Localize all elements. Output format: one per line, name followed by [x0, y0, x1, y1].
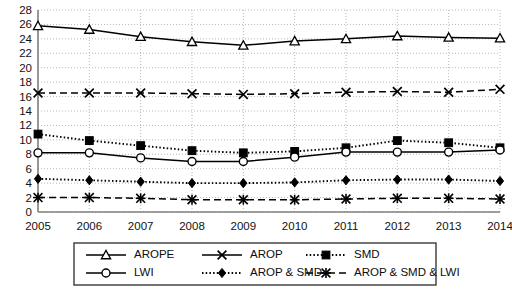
data-point-marker-square [85, 137, 93, 145]
y-axis-tick-label: 18 [19, 76, 32, 88]
legend-label: SMD [354, 248, 380, 260]
data-point-marker-square [239, 149, 247, 157]
y-axis-tick-label: 6 [26, 163, 32, 175]
y-axis-tick-label: 20 [19, 62, 32, 74]
data-point-marker-circle [188, 158, 196, 166]
data-point-marker-square [188, 147, 196, 155]
data-point-marker-circle [102, 269, 110, 277]
x-axis-tick-label: 2005 [25, 220, 51, 232]
data-point-marker-circle [342, 148, 350, 156]
legend-label: AROP & SMD & LWI [354, 266, 460, 278]
legend-label: LWI [134, 266, 154, 278]
y-axis-tick-label: 28 [19, 4, 32, 16]
x-axis-tick-label: 2012 [385, 220, 411, 232]
data-point-marker-circle [445, 148, 453, 156]
x-axis-tick-label: 2014 [487, 220, 512, 232]
x-axis-tick-label: 2013 [436, 220, 462, 232]
data-point-marker-circle [239, 158, 247, 166]
y-axis-tick-label: 14 [19, 105, 32, 117]
data-point-marker-star [290, 195, 300, 205]
y-axis-tick-label: 12 [19, 119, 32, 131]
y-axis-tick-label: 26 [19, 18, 32, 30]
legend-label: AROP [250, 248, 283, 260]
legend-label: AROP & SMD [250, 266, 322, 278]
data-point-marker-star [238, 195, 248, 205]
data-point-marker-circle [85, 149, 93, 157]
chart-container: 0246810121416182022242628 20052006200720… [0, 0, 512, 290]
data-point-marker-circle [393, 148, 401, 156]
x-axis-tick-label: 2006 [77, 220, 103, 232]
data-point-marker-star [84, 193, 94, 203]
x-axis-tick-label: 2009 [231, 220, 257, 232]
data-point-marker-star [444, 193, 454, 203]
data-point-marker-star [136, 193, 146, 203]
x-axis-tick-label: 2011 [334, 220, 359, 232]
data-point-marker-star [321, 268, 331, 278]
data-point-marker-star [187, 195, 197, 205]
data-point-marker-square [34, 130, 42, 138]
y-axis-tick-label: 4 [26, 177, 33, 189]
data-point-marker-square [393, 137, 401, 145]
data-point-marker-square [322, 251, 330, 259]
data-point-marker-star [392, 193, 402, 203]
x-axis-tick-label: 2010 [282, 220, 308, 232]
data-point-marker-circle [496, 146, 504, 154]
data-point-marker-star [495, 194, 505, 204]
y-axis-tick-label: 8 [26, 148, 32, 160]
data-point-marker-square [137, 142, 145, 150]
chart-legend: AROPEAROPSMDLWIAROP & SMDAROP & SMD & LW… [74, 243, 460, 285]
data-point-marker-star [341, 194, 351, 204]
y-axis-tick-label: 24 [19, 33, 32, 45]
data-point-marker-circle [291, 153, 299, 161]
x-axis-tick-label: 2008 [179, 220, 205, 232]
line-chart: 0246810121416182022242628 20052006200720… [0, 0, 512, 290]
y-axis-tick-label: 2 [26, 192, 32, 204]
y-axis-tick-label: 0 [26, 206, 32, 218]
y-axis-tick-label: 16 [19, 91, 32, 103]
x-axis-tick-label: 2007 [128, 220, 154, 232]
data-point-marker-circle [137, 154, 145, 162]
y-axis-tick-label: 22 [19, 47, 32, 59]
y-axis-tick-label: 10 [19, 134, 32, 146]
data-point-marker-star [33, 193, 43, 203]
data-point-marker-square [445, 139, 453, 147]
data-point-marker-circle [34, 149, 42, 157]
legend-label: AROPE [134, 248, 175, 260]
